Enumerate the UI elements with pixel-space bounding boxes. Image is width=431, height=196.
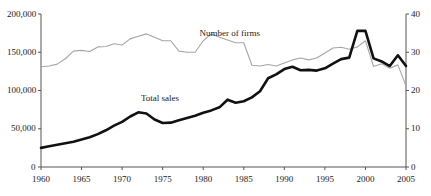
left-axis-tick-label-50000: 50,000 [11, 124, 36, 133]
series-annotation-number-of-firms: Number of firms [200, 29, 261, 38]
x-axis-tick-label-1980: 1980 [194, 175, 212, 184]
x-axis-tick-label-1990: 1990 [275, 175, 293, 184]
left-axis-tick-label-200000: 200,000 [7, 10, 36, 19]
left-axis-tick-label-100000: 100,000 [7, 86, 36, 95]
x-axis-tick-label-1960: 1960 [32, 175, 50, 184]
x-axis-tick-label-1995: 1995 [316, 175, 334, 184]
chart-figure: 050,000100,000150,000200,000010203040196… [0, 0, 431, 196]
left-axis-tick-label-150000: 150,000 [7, 48, 36, 57]
right-axis-tick-label-10: 10 [411, 124, 420, 133]
x-axis-tick-label-1965: 1965 [73, 175, 91, 184]
x-axis-tick-label-2005: 2005 [397, 175, 415, 184]
series-line-number-of-firms [41, 34, 406, 86]
x-axis-tick-label-2000: 2000 [356, 175, 374, 184]
series-annotation-total-sales: Total sales [141, 94, 179, 103]
x-axis-tick-label-1970: 1970 [113, 175, 131, 184]
right-axis-tick-label-40: 40 [411, 10, 420, 19]
right-axis-tick-label-30: 30 [411, 48, 420, 57]
x-axis-tick-label-1975: 1975 [154, 175, 172, 184]
left-axis-tick-label-0: 0 [31, 163, 36, 172]
x-axis-tick-label-1985: 1985 [235, 175, 253, 184]
right-axis-tick-label-20: 20 [411, 86, 420, 95]
right-axis-tick-label-0: 0 [411, 163, 416, 172]
